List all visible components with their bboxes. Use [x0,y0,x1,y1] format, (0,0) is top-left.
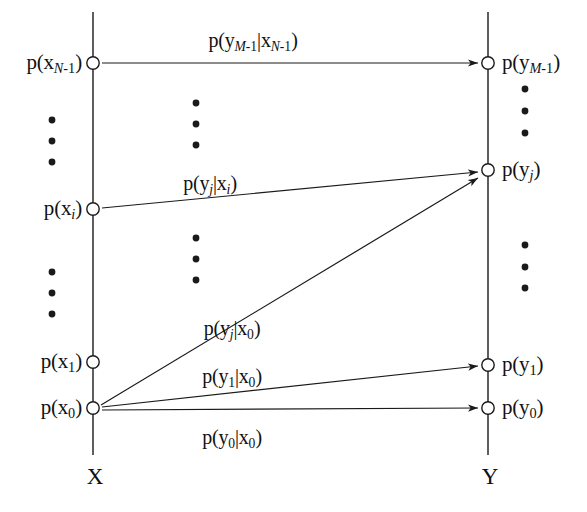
input-node-label-x_1: p(x1) [41,351,82,372]
output-node-y_M_1[interactable] [482,57,494,69]
ellipsis-dots [49,86,529,318]
edge-label-e_x0_yj: p(yj|x0) [204,318,261,338]
edge-label-e_xi_yj: p(yj|xi) [183,173,237,193]
ellipsis-dot-mid-upper-0 [193,100,200,107]
ellipsis-dot-left-upper-2 [49,159,56,166]
ellipsis-dot-mid-lower-0 [193,235,200,242]
ellipsis-dot-right-lower-2 [522,285,529,292]
output-node-label-y_M_1: p(yM-1) [502,52,560,73]
output-node-y_0[interactable] [482,402,494,414]
output-node-y_j[interactable] [482,164,494,176]
node-circles [87,57,494,414]
ellipsis-dot-left-lower-0 [49,269,56,276]
ellipsis-dot-mid-upper-2 [193,142,200,149]
input-node-label-x_i: p(xi) [44,198,82,219]
output-node-label-y_1: p(y1) [502,354,543,375]
ellipsis-dot-left-lower-2 [49,311,56,318]
ellipsis-dot-left-upper-0 [49,117,56,124]
output-node-y_1[interactable] [482,359,494,371]
input-node-x_i[interactable] [87,203,99,215]
edge-label-e_x0_y0: p(y0|x0) [202,427,262,447]
input-node-x_N_1[interactable] [87,57,99,69]
output-node-label-y_0: p(y0) [502,397,543,418]
axis-lines [93,12,488,455]
edge-e_x0_y1 [102,366,478,407]
ellipsis-dot-right-lower-1 [522,264,529,271]
edge-e_x0_y0 [102,408,478,410]
ellipsis-dot-left-upper-1 [49,138,56,145]
ellipsis-dot-left-lower-1 [49,290,56,297]
ellipsis-dot-mid-upper-1 [193,121,200,128]
edge-e_x0_yj [101,178,478,405]
ellipsis-dot-right-upper-0 [522,86,529,93]
output-node-label-y_j: p(yj) [502,159,540,180]
axis-label-y: Y [482,464,499,490]
channel-diagram-figure: p(xN-1)p(xi)p(x1)p(x0)p(yM-1)p(yj)p(y1)p… [0,0,587,512]
input-node-x_1[interactable] [87,356,99,368]
ellipsis-dot-right-upper-2 [522,130,529,137]
edge-lines [101,63,478,410]
ellipsis-dot-right-lower-0 [522,242,529,249]
axis-label-x: X [87,464,104,490]
edge-label-e_x0_y1: p(y1|x0) [202,366,262,386]
input-node-x_0[interactable] [87,402,99,414]
ellipsis-dot-right-upper-1 [522,108,529,115]
ellipsis-dot-mid-lower-1 [193,256,200,263]
input-node-label-x_0: p(x0) [41,397,82,418]
ellipsis-dot-mid-lower-2 [193,277,200,284]
edge-label-e_top: p(yM-1|xN-1) [208,30,297,50]
edge-e_xi_yj [102,172,478,208]
diagram-canvas [0,0,587,512]
input-node-label-x_N_1: p(xN-1) [26,52,82,73]
